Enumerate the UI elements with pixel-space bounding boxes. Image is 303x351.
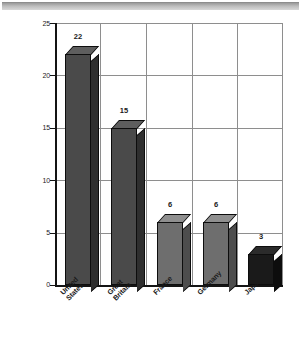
bar-value-label-france: 6 xyxy=(157,201,183,209)
bar-front-face-united-states xyxy=(65,54,91,285)
y-axis-line xyxy=(55,23,57,286)
bar-chart-figure: Percentage of Women, Aged 20 to 24, Who … xyxy=(0,0,303,351)
y-tick-label-15: 15 xyxy=(26,124,50,131)
bar-value-label-great-britain: 15 xyxy=(111,107,137,115)
bar-value-label-united-states: 22 xyxy=(65,33,91,41)
bar-value-label-germany: 6 xyxy=(203,201,229,209)
bar-great-britain[interactable]: 15 xyxy=(111,128,137,285)
bar-value-label-japan: 3 xyxy=(248,233,274,241)
gridline-vertical-1 xyxy=(100,23,101,285)
gridline-vertical-3 xyxy=(192,23,193,285)
y-tick-label-10: 10 xyxy=(26,177,50,184)
gridline-vertical-2 xyxy=(146,23,147,285)
y-tick-label-20: 20 xyxy=(26,72,50,79)
gridline-25 xyxy=(55,23,283,24)
gridline-vertical-4 xyxy=(237,23,238,285)
y-tick-label-25: 25 xyxy=(26,20,50,27)
y-tick-label-5: 5 xyxy=(26,229,50,236)
y-tick-label-0: 0 xyxy=(26,281,50,288)
bar-front-face-great-britain xyxy=(111,128,137,285)
bar-united-states[interactable]: 22 xyxy=(65,54,91,285)
